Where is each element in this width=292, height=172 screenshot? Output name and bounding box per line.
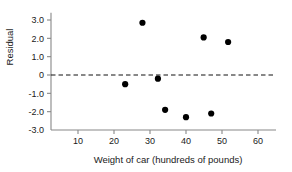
x-tick-label: 20 bbox=[109, 136, 119, 146]
data-point bbox=[208, 110, 214, 116]
data-point bbox=[225, 39, 231, 45]
data-point bbox=[201, 34, 207, 40]
scatter-plot-svg: 3.02.01.00-1.0-2.0-3.0 102030405060 Resi… bbox=[0, 0, 292, 172]
residual-plot: 3.02.01.00-1.0-2.0-3.0 102030405060 Resi… bbox=[0, 0, 292, 172]
x-tick-label: 40 bbox=[181, 136, 191, 146]
y-tick-label: 2.0 bbox=[31, 34, 44, 44]
y-axis-tick-label-group: 3.02.01.00-1.0-2.0-3.0 bbox=[28, 15, 44, 135]
x-tick-label: 50 bbox=[217, 136, 227, 146]
x-axis-tick-label-group: 102030405060 bbox=[73, 136, 263, 146]
y-tick-label: 3.0 bbox=[31, 15, 44, 25]
data-point bbox=[183, 114, 189, 120]
data-point bbox=[139, 20, 145, 26]
y-tick-label: 0 bbox=[39, 70, 44, 80]
x-tick-label: 60 bbox=[253, 136, 263, 146]
x-axis-tick-mark-group bbox=[78, 130, 258, 134]
y-tick-label: 1.0 bbox=[31, 52, 44, 62]
y-axis-tick-mark-group bbox=[47, 20, 51, 112]
data-point bbox=[155, 76, 161, 82]
y-axis-title: Residual bbox=[4, 29, 15, 66]
x-axis-title: Weight of car (hundreds of pounds) bbox=[94, 154, 243, 165]
y-tick-label: -3.0 bbox=[28, 125, 44, 135]
data-point bbox=[122, 81, 128, 87]
x-tick-label: 30 bbox=[145, 136, 155, 146]
data-point bbox=[162, 107, 168, 113]
data-point-group bbox=[122, 20, 231, 121]
y-tick-label: -1.0 bbox=[28, 89, 44, 99]
x-tick-label: 10 bbox=[73, 136, 83, 146]
y-tick-label: -2.0 bbox=[28, 107, 44, 117]
